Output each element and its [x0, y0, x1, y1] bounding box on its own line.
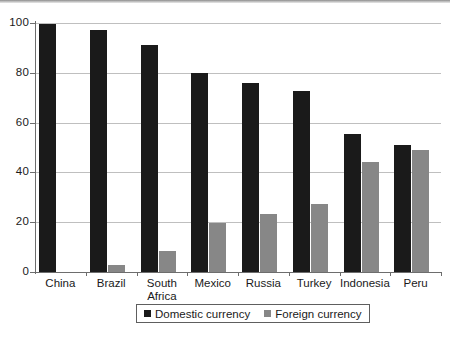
x-axis-tick	[238, 272, 239, 276]
y-axis-tick-label: 20	[0, 216, 29, 227]
category-label: Peru	[384, 277, 447, 290]
domestic-swatch-icon	[144, 310, 151, 317]
page-edge-artifact	[0, 0, 450, 3]
bar-group	[137, 23, 188, 272]
bar-domestic	[39, 24, 56, 272]
bar-foreign	[260, 214, 277, 273]
legend-label-domestic: Domestic currency	[155, 308, 250, 320]
chart-legend: Domestic currency Foreign currency	[136, 304, 370, 323]
legend-item-foreign: Foreign currency	[264, 308, 361, 320]
x-axis-tick	[340, 272, 341, 276]
x-axis-tick	[441, 272, 442, 276]
legend-item-domestic: Domestic currency	[144, 308, 250, 320]
bar-domestic	[141, 45, 158, 272]
y-axis-tick-label: 0	[0, 266, 29, 277]
bar-domestic	[293, 91, 310, 272]
bar-foreign	[311, 204, 328, 272]
bar-group	[238, 23, 289, 272]
x-axis-tick	[390, 272, 391, 276]
bar-group	[187, 23, 238, 272]
bar-group	[86, 23, 137, 272]
y-axis-tick-label: 40	[0, 166, 29, 177]
bar-group	[340, 23, 391, 272]
x-axis-tick	[187, 272, 188, 276]
bar-domestic	[191, 73, 208, 272]
x-axis-tick	[86, 272, 87, 276]
bar-domestic	[344, 134, 361, 272]
y-axis-tick-label: 100	[0, 17, 29, 28]
bar-domestic	[90, 30, 107, 272]
legend-label-foreign: Foreign currency	[275, 308, 361, 320]
bar-foreign	[362, 162, 379, 272]
bar-foreign	[209, 223, 226, 272]
bar-group	[289, 23, 340, 272]
bar-domestic	[394, 145, 411, 272]
x-axis-tick	[137, 272, 138, 276]
bar-group	[35, 23, 86, 272]
y-axis-tick-label: 80	[0, 67, 29, 78]
bar-foreign	[159, 251, 176, 272]
bar-foreign	[412, 150, 429, 272]
y-axis-tick-label: 60	[0, 117, 29, 128]
bar-domestic	[242, 83, 259, 272]
plot-area	[35, 23, 441, 272]
bar-group	[390, 23, 441, 272]
foreign-swatch-icon	[264, 310, 271, 317]
x-axis-tick	[289, 272, 290, 276]
bar-foreign	[108, 265, 125, 272]
bar-chart-figure: 020406080100 ChinaBrazilSouth AfricaMexi…	[0, 0, 450, 338]
